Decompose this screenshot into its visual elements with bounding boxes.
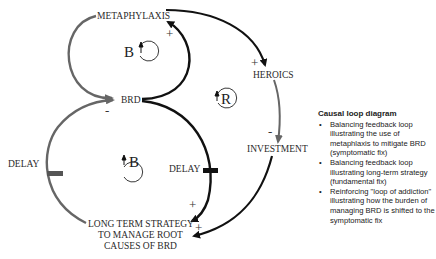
- delay-label-left: DELAY: [8, 159, 39, 169]
- legend: Causal loop diagram Balancing feedback l…: [318, 109, 436, 225]
- sign-brd-to-longterm: +: [189, 197, 196, 212]
- link-brd-to-longterm: [142, 101, 211, 221]
- node-heroics: HEROICS: [253, 70, 294, 80]
- sign-investment-to-longterm: +: [195, 220, 202, 235]
- legend-item: Balancing feedback loop illustrating the…: [328, 120, 436, 158]
- delay-marker-right: [203, 168, 218, 173]
- sign-metaphylaxis-to-heroics: +: [251, 55, 258, 70]
- sign-metaphylaxis-to-brd: -: [105, 103, 109, 118]
- sign-heroics-to-investment: -: [268, 124, 272, 139]
- node-long-term-strategy-line3: CAUSES OF BRD: [104, 241, 177, 251]
- loop-letter-bottom: B: [129, 154, 139, 170]
- loop-indicator-bottom-balancing: B: [122, 154, 143, 182]
- node-long-term-strategy-line2: TO MANAGE ROOT: [98, 230, 183, 240]
- loop-letter-top: B: [124, 44, 134, 60]
- link-metaphylaxis-to-brd: [69, 16, 112, 98]
- node-investment: INVESTMENT: [247, 144, 308, 154]
- legend-title: Causal loop diagram: [318, 109, 436, 119]
- node-brd: BRD: [121, 95, 141, 105]
- link-heroics-to-investment: [274, 80, 280, 142]
- sign-brd-to-metaphylaxis: +: [166, 26, 173, 41]
- loop-arrow-icon: [122, 155, 126, 165]
- loop-letter-middle: R: [221, 91, 231, 107]
- delay-marker-left: [47, 171, 63, 176]
- node-metaphylaxis: METAPHYLAXIS: [97, 11, 170, 21]
- loop-indicator-top-balancing: B: [124, 41, 159, 61]
- legend-list: Balancing feedback loop illustrating the…: [318, 120, 436, 226]
- delay-label-right: DELAY: [169, 164, 200, 174]
- legend-item: Reinforcing "loop of addiction" illustra…: [328, 187, 436, 225]
- legend-item: Balancing feedback loop illustrating lon…: [328, 158, 436, 187]
- link-longterm-to-brd: [47, 100, 113, 223]
- loop-indicator-reinforcing: R: [215, 88, 237, 108]
- node-long-term-strategy-line1: LONG TERM STRATEGY: [88, 219, 194, 229]
